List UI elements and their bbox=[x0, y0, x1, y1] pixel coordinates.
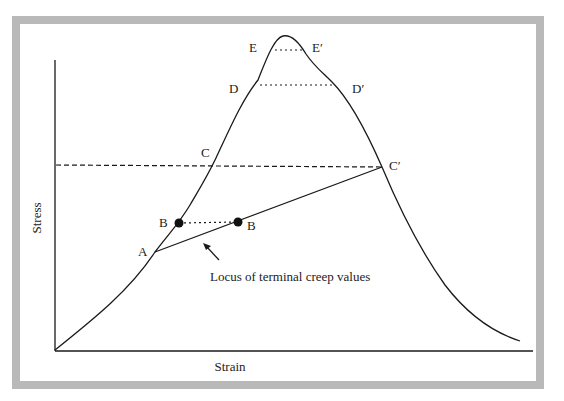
stress-strain-diagram: A B B C C′ D D′ E E′ Locus of terminal c… bbox=[0, 0, 564, 401]
label-b-left: B bbox=[159, 215, 168, 230]
label-d-prime: D′ bbox=[352, 81, 364, 96]
c-dashed-line bbox=[56, 165, 382, 167]
locus-annotation: Locus of terminal creep values bbox=[210, 269, 370, 284]
label-a: A bbox=[138, 244, 148, 259]
label-c-prime: C′ bbox=[389, 158, 401, 173]
x-axis-label: Strain bbox=[214, 359, 246, 374]
y-axis-label: Stress bbox=[29, 202, 44, 233]
point-b-right bbox=[234, 218, 243, 227]
label-e-prime: E′ bbox=[312, 40, 323, 55]
label-c: C bbox=[201, 145, 210, 160]
locus-line bbox=[155, 167, 382, 252]
label-d: D bbox=[229, 81, 238, 96]
b-dotted-line bbox=[179, 222, 238, 223]
stress-strain-curve bbox=[55, 36, 520, 350]
label-e: E bbox=[249, 40, 257, 55]
label-b-right: B bbox=[247, 218, 256, 233]
arrow-head-icon bbox=[203, 243, 211, 250]
point-b-left bbox=[175, 219, 184, 228]
